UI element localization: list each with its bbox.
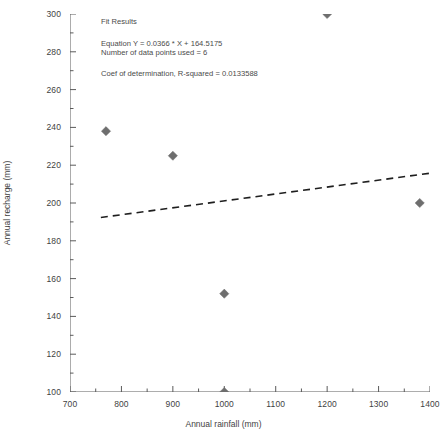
regression-line xyxy=(101,173,430,217)
data-points xyxy=(101,14,424,392)
x-tick-label: 700 xyxy=(63,399,77,409)
y-axis-title: Annual recharge (mm) xyxy=(2,14,18,392)
chart-figure: Fit Results Equation Y = 0.0366 * X + 16… xyxy=(0,0,447,442)
axis-spines xyxy=(70,14,430,392)
x-tick-label: 1200 xyxy=(317,399,336,409)
data-point-marker xyxy=(220,289,229,298)
x-tick-label: 800 xyxy=(114,399,128,409)
x-tick-label: 1400 xyxy=(420,399,439,409)
major-tick-marks xyxy=(70,14,430,392)
plot-canvas xyxy=(70,14,430,392)
x-axis-title: Annual rainfall (mm) xyxy=(0,419,447,429)
fit-line xyxy=(101,173,430,217)
data-point-marker xyxy=(323,14,332,19)
data-point-marker xyxy=(168,151,177,160)
x-tick-label: 1300 xyxy=(369,399,388,409)
data-point-marker xyxy=(101,127,110,136)
plot-area xyxy=(70,14,430,392)
x-tick-label: 900 xyxy=(166,399,180,409)
data-point-marker xyxy=(415,198,424,207)
minor-tick-marks xyxy=(70,33,404,392)
x-tick-label: 1100 xyxy=(266,399,285,409)
data-point-marker xyxy=(220,387,229,392)
x-tick-label: 1000 xyxy=(215,399,234,409)
